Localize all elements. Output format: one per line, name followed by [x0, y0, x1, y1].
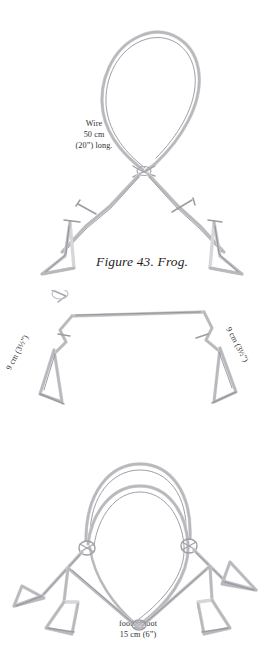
wire-spec-line-2: 50 cm: [58, 130, 130, 141]
wire-spec-label: Wire 50 cm (20”) long.: [58, 119, 130, 151]
residual-knot-above: [52, 290, 68, 302]
right-foot-45: [198, 600, 230, 634]
left-foot-45: [46, 602, 78, 634]
left-shoulder-bend: [56, 316, 72, 352]
wire-spec-line-1: Wire: [58, 119, 130, 130]
figure-45-drawing: [0, 420, 276, 664]
right-shoulder-bend: [196, 312, 218, 350]
wire-spec-line-3: (20”) long.: [58, 141, 130, 152]
body-teardrop: [88, 486, 188, 626]
scanned-page: Wire 50 cm (20”) long. Figure 43. Frog.: [0, 0, 276, 664]
figure-44-drawing: [0, 290, 276, 420]
right-foot-triangle: [208, 220, 242, 274]
figure-45: Figure 45.: [0, 420, 276, 664]
top-spine-bar: [72, 312, 204, 316]
figure-43: Wire 50 cm (20”) long. Figure 43. Frog.: [0, 0, 276, 290]
left-arm: [14, 552, 82, 606]
right-foot-triangle-44: [212, 348, 236, 403]
figure-43-drawing: [0, 0, 276, 290]
left-hip-bend: [78, 204, 96, 214]
left-leg-assembly: [62, 174, 140, 252]
figure-44: foot to foot 15 cm (6”) Figure 44.: [0, 290, 276, 420]
figure-43-caption: Figure 43. Frog.: [96, 254, 188, 270]
right-hand-triangle: [222, 562, 256, 590]
left-foot-triangle: [42, 220, 80, 274]
left-foot-triangle-44: [40, 350, 64, 404]
